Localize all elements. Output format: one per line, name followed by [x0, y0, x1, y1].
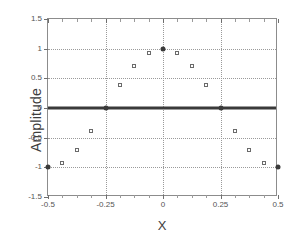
x-axis-minor-tick [62, 195, 63, 198]
y-axis-tick-label: 0 [38, 104, 42, 112]
y-axis-tick-label: -1.5 [28, 193, 42, 201]
x-axis-minor-tick [235, 195, 236, 198]
x-axis-minor-tick [249, 195, 250, 198]
gridline-horizontal [48, 167, 276, 168]
gridline-horizontal [48, 78, 276, 79]
x-axis-minor-tick [134, 19, 135, 22]
x-axis-tick [163, 19, 164, 23]
x-axis-tick [106, 19, 107, 23]
y-axis-tick-label: 0.5 [31, 74, 42, 82]
data-point [89, 129, 93, 133]
data-point [190, 64, 194, 68]
x-axis-tick [278, 195, 279, 199]
x-axis-minor-tick [120, 195, 121, 198]
x-axis-tick-label: -0.25 [96, 201, 114, 209]
y-axis-tick [44, 78, 48, 79]
data-point [132, 64, 136, 68]
y-axis-tick-label: -0.5 [28, 134, 42, 142]
x-axis-tick [221, 195, 222, 199]
x-axis-minor-tick [177, 195, 178, 198]
x-axis-tick [48, 195, 49, 199]
x-axis-minor-tick [149, 195, 150, 198]
data-point [147, 51, 151, 55]
x-axis-minor-tick [235, 19, 236, 22]
x-axis-minor-tick [206, 19, 207, 22]
data-point [204, 83, 208, 87]
x-axis-minor-tick [264, 19, 265, 22]
y-axis-tick-label: 1.5 [31, 15, 42, 23]
x-axis-minor-tick [77, 19, 78, 22]
x-axis-minor-tick [120, 19, 121, 22]
data-point [247, 148, 251, 152]
x-axis-tick [106, 195, 107, 199]
x-axis-minor-tick [192, 195, 193, 198]
data-point [161, 46, 166, 51]
x-axis-minor-tick [77, 195, 78, 198]
x-axis-minor-tick [177, 19, 178, 22]
y-axis-tick [44, 49, 48, 50]
x-axis-minor-tick [192, 19, 193, 22]
gridline-horizontal [48, 138, 276, 139]
data-point [262, 161, 266, 165]
x-axis-tick [278, 19, 279, 23]
x-axis-minor-tick [264, 195, 265, 198]
x-axis-minor-tick [249, 19, 250, 22]
x-axis-tick-label: 0.5 [272, 201, 283, 209]
x-axis-minor-tick [91, 19, 92, 22]
y-axis-tick [44, 138, 48, 139]
data-point [175, 51, 179, 55]
data-point [75, 148, 79, 152]
data-point [60, 161, 64, 165]
y-axis-tick-label: -1 [35, 163, 42, 171]
x-axis-tick [221, 19, 222, 23]
y-axis-title: Amplitude [28, 87, 44, 151]
zero-reference-line [48, 107, 276, 110]
x-axis-minor-tick [91, 195, 92, 198]
x-axis-minor-tick [206, 195, 207, 198]
chart-figure: Amplitude X -1.5-1-0.500.511.5-0.5-0.250… [0, 0, 298, 239]
data-point [276, 165, 281, 170]
x-axis-title: X [47, 218, 277, 233]
data-point [118, 83, 122, 87]
x-axis-minor-tick [149, 19, 150, 22]
x-axis-tick [48, 19, 49, 23]
data-point [103, 106, 108, 111]
data-point [46, 165, 51, 170]
x-axis-tick-label: 0 [161, 201, 165, 209]
x-axis-minor-tick [134, 195, 135, 198]
x-axis-tick-label: -0.5 [41, 201, 55, 209]
data-point [218, 106, 223, 111]
x-axis-tick [163, 195, 164, 199]
x-axis-tick-label: 0.25 [213, 201, 229, 209]
y-axis-tick-label: 1 [38, 45, 42, 53]
data-point [233, 129, 237, 133]
plot-area: -1.5-1-0.500.511.5-0.5-0.2500.250.5 [47, 18, 277, 196]
x-axis-minor-tick [62, 19, 63, 22]
